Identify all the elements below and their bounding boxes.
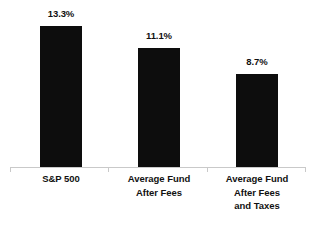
bar-value-label-2: 11.1% xyxy=(138,30,180,41)
x-axis-line xyxy=(10,167,306,168)
bar-value-label-1: 13.3% xyxy=(40,8,82,19)
bar-group-1: 13.3% xyxy=(40,0,82,168)
x-axis-label-average-fund-after-fees-and-taxes: Average Fund After Fees and Taxes xyxy=(207,172,307,213)
bar-sp500 xyxy=(40,26,82,168)
x-axis-label-average-fund-after-fees: Average Fund After Fees xyxy=(109,172,209,199)
x-axis-label-average-fund-after-fees-line-1: Average Fund xyxy=(109,172,209,186)
bar-group-3: 8.7% xyxy=(236,0,278,168)
bar-average-fund-after-fees xyxy=(138,48,180,168)
x-axis-label-sp500: S&P 500 xyxy=(11,172,111,186)
x-axis-label-average-fund-after-fees-and-taxes-line-3: and Taxes xyxy=(207,199,307,213)
bar-chart: 13.3% 11.1% 8.7% S&P 500 Average Fund Af… xyxy=(0,0,314,225)
bar-average-fund-after-fees-and-taxes xyxy=(236,74,278,168)
x-axis-label-average-fund-after-fees-and-taxes-line-2: After Fees xyxy=(207,186,307,200)
x-axis-category-labels: S&P 500 Average Fund After Fees Average … xyxy=(0,172,314,225)
bar-group-2: 11.1% xyxy=(138,0,180,168)
plot-area: 13.3% 11.1% 8.7% xyxy=(0,0,314,168)
bar-value-label-3: 8.7% xyxy=(236,56,278,67)
x-axis-label-sp500-line-1: S&P 500 xyxy=(11,172,111,186)
x-axis-label-average-fund-after-fees-line-2: After Fees xyxy=(109,186,209,200)
x-axis-label-average-fund-after-fees-and-taxes-line-1: Average Fund xyxy=(207,172,307,186)
